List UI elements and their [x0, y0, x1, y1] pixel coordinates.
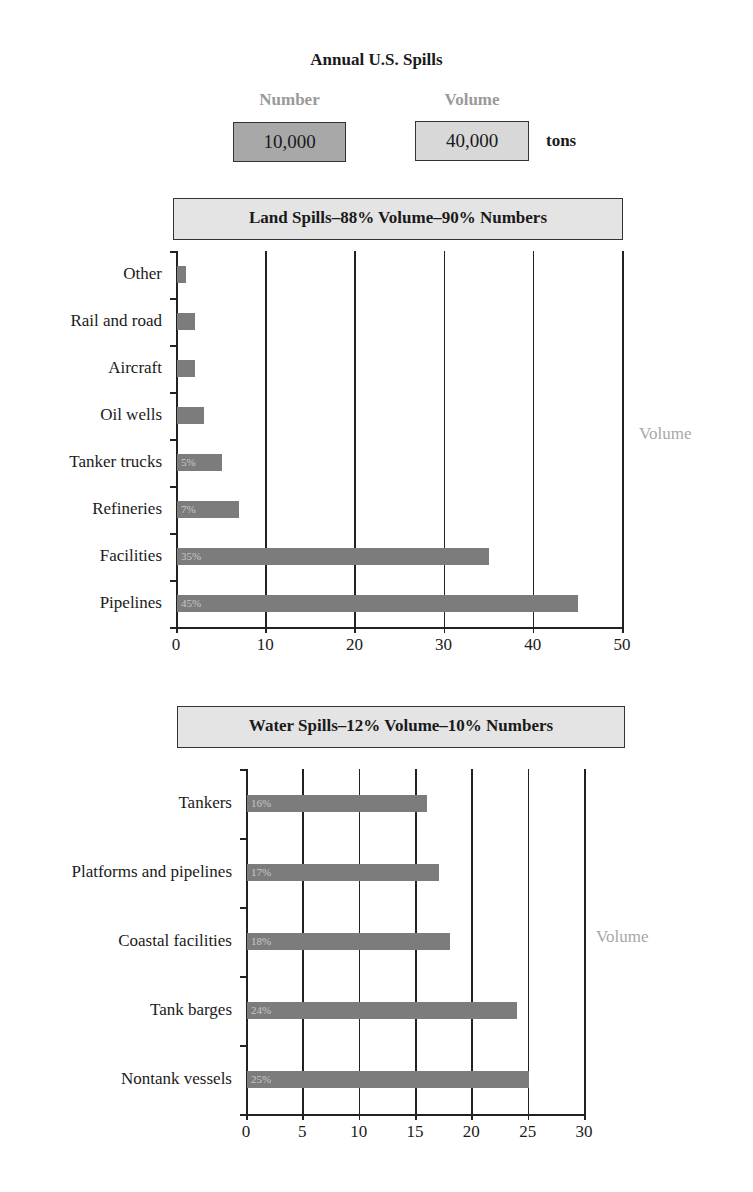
y-tick — [170, 533, 176, 535]
gridline — [444, 251, 446, 627]
x-tick-label: 0 — [226, 1122, 266, 1142]
category-label: Other — [123, 264, 162, 284]
bar: 5% — [177, 454, 222, 471]
y-tick — [240, 1045, 246, 1047]
y-tick — [240, 976, 246, 978]
legend-number-label: Number — [233, 90, 346, 110]
bar: 25% — [247, 1071, 529, 1088]
x-tick-label: 50 — [602, 635, 642, 655]
bar-value-label: 35% — [181, 548, 201, 565]
legend-volume-box: 40,000 — [415, 121, 529, 161]
gridline — [528, 769, 530, 1114]
x-tick-label: 0 — [156, 635, 196, 655]
bar-value-label: 16% — [251, 795, 271, 812]
y-tick — [170, 627, 176, 629]
category-label: Aircraft — [108, 358, 162, 378]
y-tick — [170, 298, 176, 300]
bar — [177, 266, 186, 283]
bar: 35% — [177, 548, 489, 565]
category-label: Coastal facilities — [118, 931, 232, 951]
bar: 45% — [177, 595, 578, 612]
bar-value-label: 45% — [181, 595, 201, 612]
bar — [177, 407, 204, 424]
category-label: Tanker trucks — [69, 452, 162, 472]
x-tick-label: 10 — [245, 635, 285, 655]
y-tick — [240, 838, 246, 840]
bar-value-label: 25% — [251, 1071, 271, 1088]
gridline — [354, 251, 356, 627]
gridline — [622, 251, 624, 627]
y-tick — [170, 580, 176, 582]
bar: 7% — [177, 501, 239, 518]
water-panel-header: Water Spills–12% Volume–10% Numbers — [177, 706, 625, 748]
y-tick — [170, 251, 176, 253]
category-label: Refineries — [92, 499, 162, 519]
category-label: Facilities — [100, 546, 162, 566]
x-tick-label: 20 — [334, 635, 374, 655]
gridline — [265, 251, 267, 627]
x-axis — [240, 1114, 584, 1116]
bar-value-label: 17% — [251, 864, 271, 881]
category-label: Nontank vessels — [121, 1069, 232, 1089]
figure-title: Annual U.S. Spills — [0, 50, 753, 70]
x-tick-label: 25 — [508, 1122, 548, 1142]
x-tick — [622, 627, 624, 633]
legend-volume-label: Volume — [415, 90, 529, 110]
gridline — [584, 769, 586, 1114]
land-panel-header: Land Spills–88% Volume–90% Numbers — [173, 198, 623, 240]
x-tick-label: 40 — [513, 635, 553, 655]
gridline — [471, 769, 473, 1114]
water-volume-label: Volume — [596, 927, 649, 947]
bar-value-label: 7% — [181, 501, 196, 518]
category-label: Tankers — [178, 793, 232, 813]
y-tick — [170, 486, 176, 488]
category-label: Rail and road — [70, 311, 162, 331]
y-axis — [176, 251, 178, 633]
land-volume-label: Volume — [639, 424, 692, 444]
legend-unit: tons — [546, 131, 576, 151]
bar: 18% — [247, 933, 450, 950]
x-tick-label: 20 — [451, 1122, 491, 1142]
bar-value-label: 5% — [181, 454, 196, 471]
y-tick — [170, 392, 176, 394]
bar-value-label: 24% — [251, 1002, 271, 1019]
bar: 16% — [247, 795, 427, 812]
bar: 24% — [247, 1002, 517, 1019]
x-tick-label: 30 — [564, 1122, 604, 1142]
bar: 17% — [247, 864, 439, 881]
x-tick — [584, 1114, 586, 1120]
x-tick-label: 30 — [424, 635, 464, 655]
y-tick — [170, 439, 176, 441]
bar — [177, 360, 195, 377]
y-tick — [170, 345, 176, 347]
y-tick — [240, 907, 246, 909]
x-tick-label: 10 — [339, 1122, 379, 1142]
legend-number-box: 10,000 — [233, 122, 346, 162]
category-label: Tank barges — [150, 1000, 232, 1020]
y-tick — [240, 1114, 246, 1116]
y-tick — [240, 769, 246, 771]
x-axis — [170, 627, 622, 629]
bar-value-label: 18% — [251, 933, 271, 950]
category-label: Platforms and pipelines — [71, 862, 232, 882]
category-label: Pipelines — [100, 593, 162, 613]
x-tick-label: 5 — [282, 1122, 322, 1142]
bar — [177, 313, 195, 330]
category-label: Oil wells — [100, 405, 162, 425]
gridline — [533, 251, 535, 627]
x-tick-label: 15 — [395, 1122, 435, 1142]
